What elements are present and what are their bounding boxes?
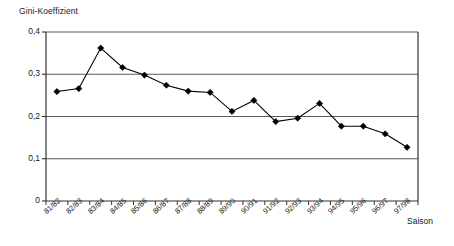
data-point-marker [163,82,169,88]
data-point-marker [76,86,82,92]
data-point-markers [54,45,410,150]
data-point-marker [382,131,388,137]
data-point-marker [404,144,410,150]
gridlines [46,32,418,159]
plot-area [0,0,454,246]
x-axis-ticks [46,201,418,205]
data-line-series [57,48,407,147]
data-point-marker [141,72,147,78]
data-point-marker [54,88,60,94]
gini-coefficient-line-chart: Gini-Koeffizient Saison 00,10,20,30,4 81… [0,0,454,246]
data-point-marker [360,123,366,129]
data-point-marker [185,88,191,94]
